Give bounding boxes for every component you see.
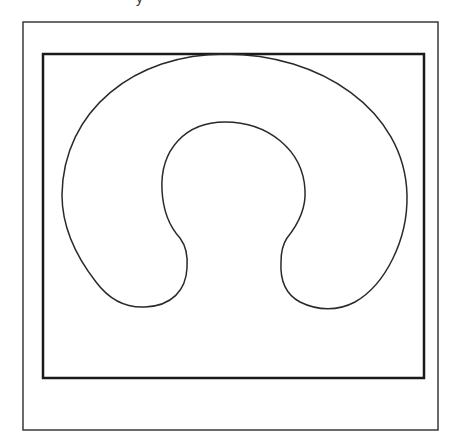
diagram-canvas — [0, 0, 459, 437]
outer-frame — [23, 22, 438, 430]
horseshoe-shape — [62, 54, 407, 309]
